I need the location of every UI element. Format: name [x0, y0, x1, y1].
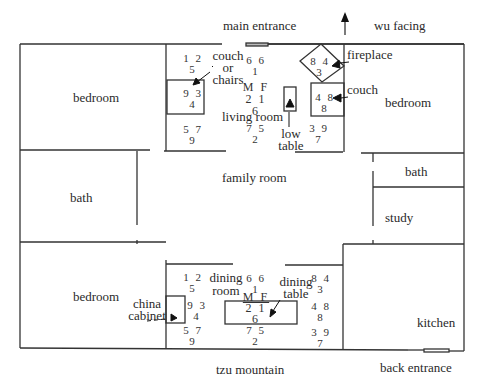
dining-w-numbers: 9 34 [185, 300, 209, 322]
room-bath-e: bath [405, 165, 427, 178]
main-entrance-label: main entrance [223, 19, 296, 32]
low-table-label: low table [276, 128, 306, 152]
living-se-numbers: 3 97 [307, 123, 331, 145]
low-table-line2: table [276, 140, 306, 152]
living-n-numbers: 6 61 [244, 55, 268, 77]
living-sw-numbers: 5 79 [181, 124, 205, 146]
living-center-numbers: M F2 16 [241, 81, 271, 117]
couch-label: couch [347, 83, 378, 96]
living-nw-numbers: 1 25 [181, 53, 205, 75]
living-w-numbers: 9 34 [181, 88, 205, 110]
dining-ne-numbers: 8 43 [309, 273, 333, 295]
back-entrance-label: back entrance [380, 361, 452, 374]
room-study: study [385, 211, 413, 224]
living-s-numbers: 7 52 [244, 123, 268, 145]
dining-e-numbers: 4 88 [309, 301, 333, 323]
dining-nw-numbers: 1 25 [181, 272, 205, 294]
room-dining-room: dining room [206, 271, 246, 297]
room-bath-w: bath [70, 191, 92, 204]
fireplace-label: fireplace [347, 48, 392, 61]
dining-center-numbers: M F2 16 [241, 292, 271, 325]
tzu-mountain-label: tzu mountain [216, 363, 284, 376]
living-fireplace-numbers: 8 43 [308, 56, 332, 78]
dining-room-line2: room [206, 284, 246, 297]
room-family-room: family room [222, 171, 287, 184]
room-bedroom-ne: bedroom [385, 96, 431, 109]
china-cabinet-label: china cabinet [127, 298, 167, 322]
dining-sw-numbers: 5 79 [181, 325, 205, 347]
wu-facing-label: wu facing [374, 19, 426, 32]
room-bedroom-sw: bedroom [73, 290, 119, 303]
room-kitchen: kitchen [417, 316, 455, 329]
living-couch-numbers: 4 88 [313, 92, 337, 114]
dining-s-numbers: 7 52 [244, 325, 268, 347]
room-bedroom-nw: bedroom [73, 91, 119, 104]
north-arrow-icon [341, 12, 349, 35]
dining-se-numbers: 3 97 [309, 327, 333, 349]
china-cabinet-line2: cabinet [127, 310, 167, 322]
